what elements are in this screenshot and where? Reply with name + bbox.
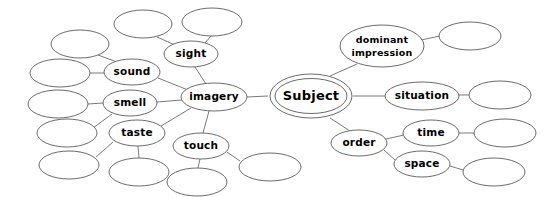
node-label-sound: sound (114, 65, 151, 77)
blank-node-blank_taste_b[interactable] (109, 158, 169, 186)
blank-node-blank_sound_a[interactable] (51, 30, 109, 58)
node-situation[interactable]: situation (385, 82, 459, 110)
node-label-situation: situation (395, 89, 450, 101)
edge-touch-to-blank_touch_a (198, 159, 200, 168)
edge-order-to-time (386, 135, 404, 139)
node-label-smell: smell (114, 96, 147, 108)
edge-smell-to-blank_smell_b (93, 114, 112, 128)
blank-node-blank_smell_b[interactable] (37, 119, 97, 147)
blank-node-blank_sight_a[interactable] (114, 10, 172, 38)
edge-sight-to-blank_sight_a (157, 37, 175, 45)
node-order[interactable]: order (331, 130, 387, 156)
edge-imagery-to-sound (158, 78, 188, 90)
blank-node-blank_smell_a[interactable] (28, 90, 88, 118)
blank-node-blank_space[interactable] (463, 158, 525, 186)
edge-taste-to-blank_taste_b (138, 146, 139, 158)
edge-touch-to-blank_touch_b (227, 152, 240, 161)
edge-dominant_impression-to-blank_dom_a (421, 36, 440, 40)
node-label-touch: touch (184, 139, 218, 151)
node-touch[interactable]: touch (173, 133, 229, 159)
edge-smell-to-blank_smell_a (88, 103, 103, 104)
blank-node-blank_sound_b[interactable] (30, 59, 90, 87)
edge-imagery-to-taste (161, 108, 191, 126)
node-time[interactable]: time (403, 120, 459, 146)
node-label-taste: taste (121, 126, 153, 138)
edge-subject-to-order (330, 118, 350, 131)
node-taste[interactable]: taste (109, 120, 165, 146)
blank-node-blank_taste_a[interactable] (39, 151, 99, 179)
blank-node-blank_dom_a[interactable] (439, 22, 501, 50)
node-label-order: order (342, 136, 376, 148)
mindmap-canvas: Subjectimagerysightsoundsmelltastetouchd… (0, 0, 558, 197)
node-label-space: space (404, 157, 439, 169)
node-space[interactable]: space (394, 151, 450, 177)
node-dominant_impression[interactable]: dominantimpression (340, 25, 424, 67)
edge-imagery-to-smell (157, 100, 182, 102)
edge-subject-to-imagery (247, 96, 268, 97)
edge-space-to-blank_space (450, 166, 463, 170)
node-sound[interactable]: sound (104, 59, 160, 85)
blank-node-blank_touch_b[interactable] (239, 153, 301, 181)
blank-node-blank_touch_a[interactable] (167, 168, 227, 196)
edge-sight-to-blank_sight_b (205, 36, 211, 43)
blank-node-blank_time[interactable] (474, 119, 536, 147)
edge-taste-to-blank_taste_a (96, 142, 113, 157)
edge-order-to-space (384, 150, 395, 160)
node-subject[interactable]: Subject (270, 74, 352, 118)
edge-imagery-to-touch (203, 111, 209, 133)
node-sight[interactable]: sight (164, 41, 218, 67)
edge-imagery-to-sight (195, 67, 206, 84)
node-label-sight: sight (176, 47, 207, 59)
edge-subject-to-dominant_impression (330, 64, 357, 76)
node-imagery[interactable]: imagery (181, 83, 247, 111)
edge-sound-to-blank_sound_a (98, 55, 117, 62)
node-smell[interactable]: smell (103, 90, 157, 116)
node-label-time: time (417, 126, 444, 138)
mindmap-diagram: Subjectimagerysightsoundsmelltastetouchd… (0, 0, 558, 197)
node-label-subject: Subject (283, 88, 340, 103)
blank-node-blank_sight_b[interactable] (182, 8, 242, 36)
blank-node-blank_situation[interactable] (469, 81, 531, 109)
node-label-imagery: imagery (189, 90, 239, 102)
